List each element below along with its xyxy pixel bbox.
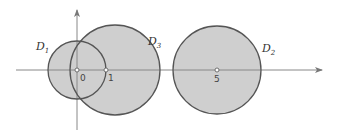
tick-label-5: 5 [214, 74, 220, 84]
point-0 [75, 68, 79, 72]
tick-label-0: 0 [80, 73, 86, 83]
label-d2: D2 [261, 42, 276, 57]
diagram: 0 1 5 D1 D3 D2 [0, 0, 337, 136]
label-d1: D1 [35, 40, 49, 55]
point-1 [104, 68, 108, 72]
point-5 [215, 68, 219, 72]
diagram-canvas: 0 1 5 D1 D3 D2 [0, 0, 337, 136]
label-d3: D3 [147, 35, 162, 50]
tick-label-1: 1 [108, 73, 114, 83]
